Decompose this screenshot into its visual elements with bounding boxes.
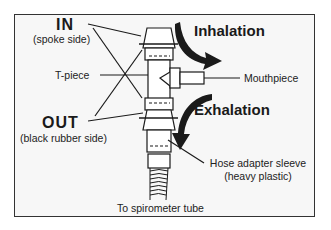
in-label: IN <box>56 17 74 33</box>
t-piece-label: T-piece <box>55 70 89 81</box>
hose-adapter-line1: Hose adapter sleeve <box>203 158 313 169</box>
spirometer-tube-label: To spirometer tube <box>117 203 204 214</box>
hose-adapter <box>148 154 170 168</box>
out-subtitle: (black rubber side) <box>20 133 107 144</box>
hose <box>150 168 168 200</box>
out-valve <box>143 110 175 130</box>
exhalation-label: Exhalation <box>194 102 270 117</box>
mouthpiece <box>170 68 180 88</box>
in-valve <box>143 28 175 48</box>
mouthpiece-label: Mouthpiece <box>244 73 298 84</box>
in-subtitle: (spoke side) <box>33 34 90 45</box>
inhalation-label: Inhalation <box>194 23 265 38</box>
out-label: OUT <box>42 115 79 131</box>
hose-adapter-label: Hose adapter sleeve (heavy plastic) <box>203 158 313 181</box>
hose-adapter-line2: (heavy plastic) <box>203 171 313 182</box>
